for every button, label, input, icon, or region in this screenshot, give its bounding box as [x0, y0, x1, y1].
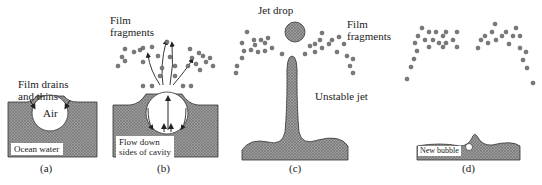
bubble-bursting-diagram	[0, 0, 542, 185]
label-film-fragments-b: Film fragments	[110, 14, 154, 38]
new-bubble-d	[466, 144, 473, 151]
label-flow-down: Flow down sides of cavity	[116, 136, 174, 158]
label-unstable-jet: Unstable jet	[315, 90, 368, 102]
label-ocean-water: Ocean water	[11, 143, 63, 155]
label-jet-drop: Jet drop	[258, 4, 293, 16]
label-film-drains: Film drains and thins	[18, 78, 68, 102]
jet-drop	[285, 22, 305, 42]
caption-b: (b)	[157, 162, 170, 174]
label-film-fragments-c: Film fragments	[347, 18, 391, 42]
label-new-bubble: New bubble	[418, 146, 461, 156]
caption-a: (a)	[40, 162, 52, 174]
label-air: Air	[43, 107, 58, 119]
caption-d: (d)	[462, 162, 475, 174]
unstable-jet	[242, 56, 348, 160]
caption-c: (c)	[289, 162, 301, 174]
panel-d	[405, 22, 535, 160]
